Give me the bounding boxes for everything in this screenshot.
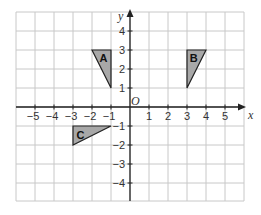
x-tick-label: −2 <box>84 110 97 122</box>
triangle-label-a: A <box>99 52 107 64</box>
y-tick-label: −4 <box>112 177 125 189</box>
origin-label: O <box>131 94 140 108</box>
x-tick-label: 2 <box>165 110 171 122</box>
coordinate-grid: ABC −5−4−3−2−1123454321−1−2−3−4xyO <box>0 0 261 215</box>
y-tick-label: 4 <box>119 25 125 37</box>
y-tick-label: −1 <box>112 120 125 132</box>
y-tick-label: −3 <box>112 158 125 170</box>
x-tick-label: −3 <box>65 110 78 122</box>
x-tick-label: 4 <box>203 110 209 122</box>
y-tick-label: 2 <box>119 63 125 75</box>
x-tick-label: −4 <box>46 110 59 122</box>
tick-labels: −5−4−3−2−1123454321−1−2−3−4xyO <box>27 9 254 189</box>
y-axis-label: y <box>117 9 124 23</box>
x-axis-arrow-icon <box>238 104 246 111</box>
y-tick-label: −2 <box>112 139 125 151</box>
x-axis-label: x <box>247 108 254 122</box>
y-tick-label: 1 <box>119 82 125 94</box>
triangle-label-b: B <box>190 52 198 64</box>
x-tick-label: 1 <box>146 110 152 122</box>
triangle-label-c: C <box>77 129 85 141</box>
y-tick-label: 3 <box>119 44 125 56</box>
x-tick-label: 5 <box>222 110 228 122</box>
x-tick-label: −5 <box>27 110 40 122</box>
y-axis-arrow-icon <box>127 9 134 17</box>
x-tick-label: 3 <box>184 110 190 122</box>
